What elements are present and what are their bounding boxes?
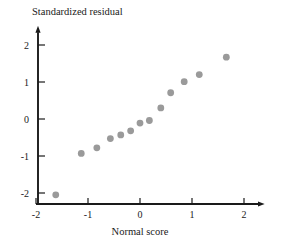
data-point bbox=[93, 144, 100, 151]
x-axis-title: Normal score bbox=[112, 226, 169, 237]
data-point bbox=[107, 135, 114, 142]
y-tick-label: 1 bbox=[24, 77, 29, 88]
y-axis-ticks: -2-1012 bbox=[21, 40, 45, 199]
x-axis-ticks: -2-1012 bbox=[32, 198, 247, 220]
data-point bbox=[137, 120, 144, 127]
x-tick-label: -2 bbox=[32, 209, 40, 220]
data-point bbox=[127, 127, 134, 134]
data-point bbox=[52, 191, 59, 198]
x-tick-label: -1 bbox=[84, 209, 92, 220]
chart-canvas: -2-1012 -2-1012 Standardized residual No… bbox=[0, 0, 290, 242]
x-tick-label: 2 bbox=[242, 209, 247, 220]
data-point bbox=[167, 89, 174, 96]
x-tick-label: 0 bbox=[138, 209, 143, 220]
data-point bbox=[146, 117, 153, 124]
data-point bbox=[117, 132, 124, 139]
y-tick-label: 2 bbox=[24, 40, 29, 51]
data-point bbox=[157, 105, 164, 112]
x-tick-label: 1 bbox=[190, 209, 195, 220]
data-point bbox=[78, 150, 85, 157]
normal-probability-plot: -2-1012 -2-1012 Standardized residual No… bbox=[0, 0, 290, 242]
y-tick-label: 0 bbox=[24, 114, 29, 125]
y-tick-label: -2 bbox=[21, 188, 29, 199]
y-tick-label: -1 bbox=[21, 151, 29, 162]
y-axis-title: Standardized residual bbox=[32, 6, 123, 17]
data-point bbox=[196, 71, 203, 78]
data-point bbox=[181, 78, 188, 85]
data-point bbox=[223, 54, 230, 61]
data-point-series bbox=[52, 54, 229, 198]
